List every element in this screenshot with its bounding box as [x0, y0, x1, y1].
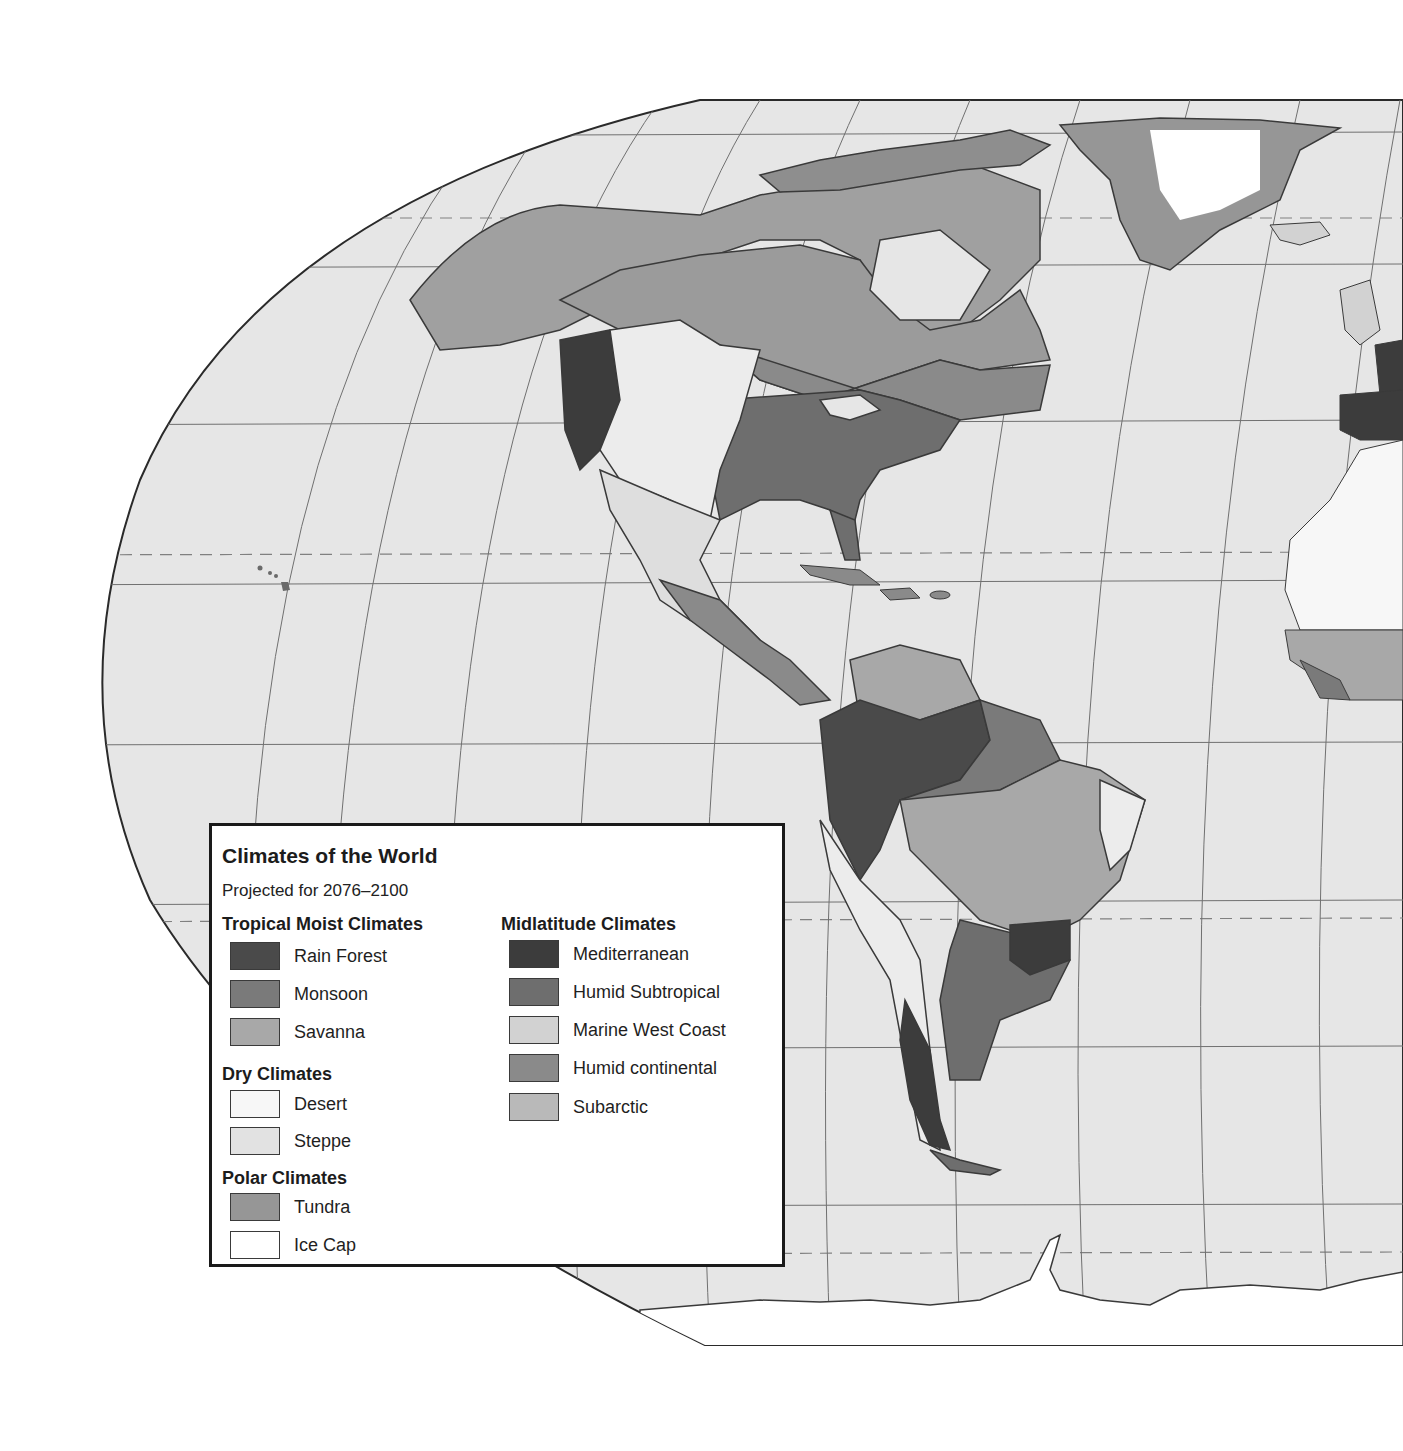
legend-item-label: Mediterranean [573, 944, 689, 965]
legend-item-label: Humid Subtropical [573, 982, 720, 1003]
desert-swatch [230, 1090, 280, 1118]
legend-item-savanna: Savanna [230, 1017, 365, 1047]
tundra-swatch [230, 1193, 280, 1221]
legend-item-label: Ice Cap [294, 1235, 356, 1256]
legend-item-ice-cap: Ice Cap [230, 1230, 356, 1260]
legend-item-desert: Desert [230, 1089, 347, 1119]
monsoon-swatch [230, 980, 280, 1008]
group-heading-polar: Polar Climates [222, 1168, 347, 1189]
legend-item-humid-subtropical: Humid Subtropical [509, 977, 720, 1007]
legend-item-subarctic: Subarctic [509, 1092, 648, 1122]
legend-item-steppe: Steppe [230, 1126, 351, 1156]
legend-item-label: Subarctic [573, 1097, 648, 1118]
legend-subtitle: Projected for 2076–2100 [222, 881, 408, 901]
legend-item-mediterranean: Mediterranean [509, 939, 689, 969]
rain-forest-swatch [230, 942, 280, 970]
mediterranean-swatch [509, 940, 559, 968]
legend-item-label: Monsoon [294, 984, 368, 1005]
humid-subtropical-swatch [509, 978, 559, 1006]
legend-item-monsoon: Monsoon [230, 979, 368, 1009]
legend-box: Climates of the World Projected for 2076… [209, 823, 785, 1267]
legend-item-humid-continental: Humid continental [509, 1053, 717, 1083]
group-heading-midlatitude: Midlatitude Climates [501, 914, 676, 935]
steppe-swatch [230, 1127, 280, 1155]
legend-item-label: Humid continental [573, 1058, 717, 1079]
legend-item-label: Desert [294, 1094, 347, 1115]
ice-cap-swatch [230, 1231, 280, 1259]
legend-item-label: Tundra [294, 1197, 350, 1218]
savanna-swatch [230, 1018, 280, 1046]
marine-west-coast-swatch [509, 1016, 559, 1044]
legend-item-label: Rain Forest [294, 946, 387, 967]
legend-item-label: Savanna [294, 1022, 365, 1043]
legend-item-tundra: Tundra [230, 1192, 350, 1222]
humid-continental-swatch [509, 1054, 559, 1082]
legend-item-rain-forest: Rain Forest [230, 941, 387, 971]
legend-title: Climates of the World [222, 844, 437, 868]
group-heading-tropical-moist: Tropical Moist Climates [222, 914, 423, 935]
legend-item-label: Steppe [294, 1131, 351, 1152]
legend-item-label: Marine West Coast [573, 1020, 726, 1041]
group-heading-dry: Dry Climates [222, 1064, 332, 1085]
legend-item-marine-west-coast: Marine West Coast [509, 1015, 726, 1045]
subarctic-swatch [509, 1093, 559, 1121]
